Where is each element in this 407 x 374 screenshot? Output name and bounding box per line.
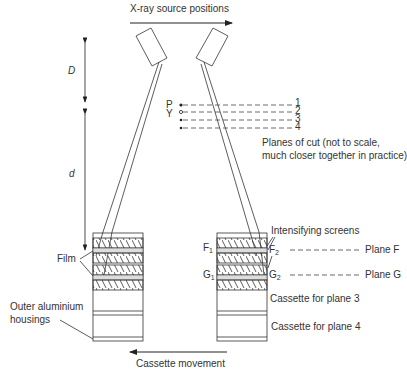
cassette-plane-4-label: Cassette for plane 4 (271, 321, 361, 332)
film-leader-2 (80, 261, 93, 276)
plane-4-dot (180, 127, 183, 130)
point-p (179, 103, 182, 106)
left-cassette-stack (93, 233, 143, 341)
dimension-D-label: D (68, 65, 75, 76)
point-y-label: Y (166, 108, 173, 119)
plane-number-4: 4 (295, 121, 301, 132)
g1-label: G1 (203, 269, 215, 281)
film-label: Film (57, 253, 76, 264)
xray-tube-left (136, 28, 167, 66)
plane-3-dot (180, 119, 183, 122)
tomography-diagram: X-ray source positions P Y 1 2 3 4 Plane… (0, 0, 407, 374)
point-y (179, 110, 182, 113)
plane-f-label: Plane F (365, 244, 399, 255)
cassette-movement-label: Cassette movement (136, 358, 225, 369)
title-label: X-ray source positions (130, 3, 229, 14)
planes-note-line1: Planes of cut (not to scale, (262, 137, 380, 148)
housing-leader (60, 320, 93, 339)
film-leader-1 (80, 251, 93, 259)
cassette-plane-3-label: Cassette for plane 3 (270, 293, 360, 304)
plane-g-label: Plane G (365, 269, 401, 280)
screen-leader-3 (268, 256, 272, 268)
planes-note-line2: much closer together in practice) (262, 150, 407, 161)
f2-label: F2 (269, 244, 279, 256)
housing-label-line2: housings (10, 314, 50, 325)
dimension-d-label: d (69, 168, 75, 179)
xray-tube-right (196, 28, 228, 66)
f1-label: F1 (203, 242, 213, 254)
housing-label-line1: Outer aluminium (10, 301, 83, 312)
g2-label: G2 (269, 269, 281, 281)
intensifying-screens-label: Intensifying screens (271, 225, 359, 236)
right-cassette-stack (217, 233, 267, 341)
